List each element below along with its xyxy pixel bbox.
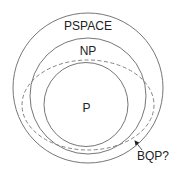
np-label: NP [80, 44, 97, 58]
complexity-diagram: PSPACE NP P BQP? [0, 0, 177, 175]
p-label: P [82, 101, 90, 115]
pspace-circle [13, 13, 163, 163]
pspace-label: PSPACE [64, 19, 112, 33]
bqp-label: BQP? [137, 149, 169, 163]
